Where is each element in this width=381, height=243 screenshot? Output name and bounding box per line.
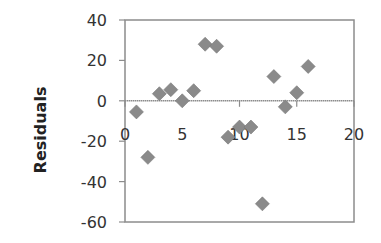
x-tick-label: 5 xyxy=(177,125,187,144)
y-tick-label: -40 xyxy=(81,173,107,192)
y-axis: 40200-20-40-60 xyxy=(81,11,125,232)
y-axis-title: Residuals xyxy=(31,87,50,174)
y-tick-label: 20 xyxy=(87,51,107,70)
x-tick-label: 20 xyxy=(344,125,364,144)
y-tick-label: 40 xyxy=(87,11,107,30)
residual-scatter-chart: 40200-20-40-60 05101520 Residuals xyxy=(0,0,381,243)
x-tick-label: 15 xyxy=(287,125,307,144)
y-tick-label: -60 xyxy=(81,213,107,232)
x-tick-label: 0 xyxy=(120,125,130,144)
y-tick-label: 0 xyxy=(97,92,107,111)
y-tick-label: -20 xyxy=(81,132,107,151)
